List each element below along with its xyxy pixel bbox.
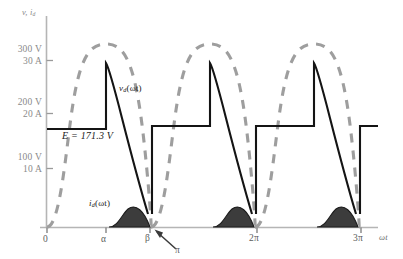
annotation-e-level: E = 171.3 V (62, 130, 113, 141)
y-tick-label-100v: 100 V (2, 152, 42, 163)
x-tick-label-beta: β (145, 233, 150, 244)
curve-label-id: id(ωt) (89, 198, 110, 211)
x-tick-label-alpha: α (101, 234, 106, 245)
x-tick-marks (47, 228, 361, 234)
y-tick-label-10a: 10 A (2, 164, 42, 175)
x-tick-label-2pi: 2π (249, 233, 259, 244)
waveform-plot (0, 0, 403, 259)
waveform-figure: v, id 300 V 30 A 200 V 20 A 100 V 10 A E… (0, 0, 403, 259)
y-tick-marks (47, 61, 54, 169)
x-tick-label-3pi: 3π (353, 233, 363, 244)
x-axis-label: ωt (379, 232, 388, 243)
y-tick-label-200v: 200 V (2, 97, 42, 108)
y-tick-label-20a: 20 A (2, 109, 42, 120)
y-axis-label: v, id (22, 7, 36, 20)
x-tick-label-0: 0 (43, 234, 48, 245)
y-tick-label-300v: 300 V (2, 44, 42, 55)
pi-pointer-arrow (155, 230, 177, 250)
curve-label-vd: vd(ωt) (119, 83, 142, 96)
y-tick-label-30a: 30 A (2, 56, 42, 67)
pi-marker-label: π (175, 245, 180, 256)
